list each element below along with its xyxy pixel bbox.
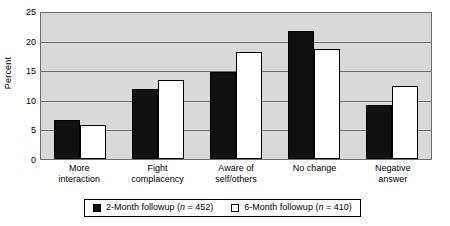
y-axis-tick: 25 (14, 8, 36, 17)
bar-groups (41, 13, 431, 159)
x-axis-tick: Fight complacency (118, 163, 196, 185)
y-axis-tick: 15 (14, 67, 36, 76)
x-axis-tick: No change (275, 163, 353, 185)
x-axis-tick-labels: More interactionFight complacencyAware o… (40, 163, 432, 185)
y-axis-tick: 0 (14, 156, 36, 165)
x-axis-tick: Negative answer (354, 163, 432, 185)
bar[interactable] (392, 86, 418, 159)
bar[interactable] (54, 120, 80, 159)
bar[interactable] (366, 105, 392, 159)
bar[interactable] (314, 49, 340, 159)
y-axis-tick: 10 (14, 96, 36, 105)
chart-legend: 2-Month followup (n = 452)6-Month follow… (84, 199, 361, 217)
legend-label: 6-Month followup (n = 410) (244, 202, 351, 213)
plot-area (40, 12, 432, 160)
bar[interactable] (158, 80, 184, 159)
bar[interactable] (236, 52, 262, 159)
bar-group (197, 13, 275, 159)
bar[interactable] (132, 89, 158, 159)
bar[interactable] (210, 72, 236, 159)
y-axis-tick: 20 (14, 37, 36, 46)
bar-group (275, 13, 353, 159)
bar[interactable] (80, 125, 106, 159)
y-axis-tick-labels: 0510152025 (14, 12, 36, 160)
legend-swatch-icon (231, 204, 239, 212)
legend-item[interactable]: 6-Month followup (n = 410) (231, 202, 351, 213)
legend-label: 2-Month followup (n = 452) (106, 202, 213, 213)
legend-item[interactable]: 2-Month followup (n = 452) (93, 202, 213, 213)
bar[interactable] (288, 31, 314, 159)
bar-chart: Percent 0510152025 More interactionFight… (0, 0, 450, 226)
y-axis-tick: 5 (14, 126, 36, 135)
y-axis-title: Percent (3, 43, 13, 103)
bar-group (119, 13, 197, 159)
bar-group (353, 13, 431, 159)
legend-swatch-icon (93, 204, 101, 212)
bar-group (41, 13, 119, 159)
x-axis-tick: More interaction (40, 163, 118, 185)
x-axis-tick: Aware of self/others (197, 163, 275, 185)
